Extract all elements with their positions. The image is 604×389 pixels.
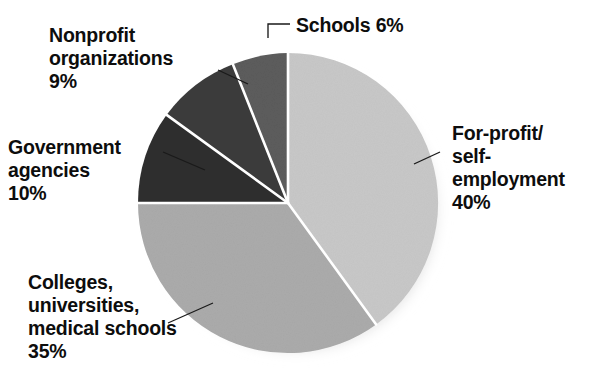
- leader-line-schools: [268, 24, 290, 38]
- slice-label-for-profit: For-profit/ self-employment 40%: [452, 122, 602, 214]
- slice-label-nonprofit: Nonprofit organizations 9%: [49, 24, 224, 93]
- slice-label-schools: Schools 6%: [296, 14, 446, 37]
- pie-chart-figure: Nonprofit organizations 9% Government ag…: [0, 0, 604, 389]
- slice-label-government: Government agencies 10%: [8, 136, 183, 205]
- slice-label-colleges: Colleges, universities, medical schools …: [28, 271, 218, 363]
